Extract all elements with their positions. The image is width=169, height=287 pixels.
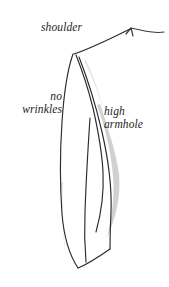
annotation-shoulder-line-1: shoulder — [41, 21, 82, 34]
annotation-high-armhole-line-2: armhole — [104, 118, 166, 131]
annotation-high-armhole-line-1: high — [104, 105, 166, 118]
shoulder-pointer-arrow — [126, 28, 164, 36]
garment-outline — [61, 29, 131, 268]
back-edge-line — [79, 57, 111, 249]
annotation-no-wrinkles-line-1: no — [0, 90, 62, 103]
annotation-no-wrinkles-line-2: wrinkles — [0, 103, 62, 116]
garment-sketch — [0, 0, 169, 287]
hem-line — [78, 249, 110, 268]
arrow-head — [126, 28, 133, 36]
shoulder-seam-line — [74, 29, 130, 54]
sleeve-fit-diagram: shoulder no wrinkles high armhole — [0, 0, 169, 287]
underarm-fold-line — [85, 118, 90, 262]
annotation-no-wrinkles: no wrinkles — [0, 90, 62, 115]
front-edge-line — [61, 54, 79, 268]
armhole-seam-line — [76, 55, 103, 232]
arrow-tail — [131, 28, 164, 33]
annotation-shoulder: shoulder — [41, 21, 82, 34]
annotation-high-armhole: high armhole — [104, 105, 166, 130]
